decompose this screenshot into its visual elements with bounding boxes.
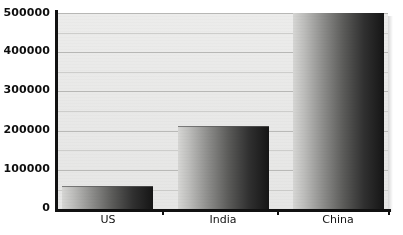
x-axis-line <box>55 209 391 212</box>
bar-india <box>178 126 269 209</box>
y-axis-tick-label-text: 0 <box>42 201 50 214</box>
y-axis-tick-label-text: 500000 <box>3 6 50 19</box>
bar-chart-figure: 500000 400000 300000 200000 100000 0 US … <box>0 0 403 235</box>
plot-drop-shadow <box>388 16 393 212</box>
x-axis-label-china: China <box>322 213 353 226</box>
y-axis-tick-label-text: 400000 <box>3 44 50 57</box>
x-axis-tick-1 <box>162 209 164 215</box>
bar-china <box>293 13 384 209</box>
x-axis-label-us: US <box>100 213 115 226</box>
bar-us <box>62 186 153 209</box>
y-axis-tick-label-text: 200000 <box>3 123 50 136</box>
y-axis-tick-label-text: 300000 <box>3 83 50 96</box>
plot-area <box>57 13 388 209</box>
x-axis-tick-3 <box>388 209 390 215</box>
x-axis-label-india: India <box>210 213 237 226</box>
x-axis-tick-2 <box>277 209 279 215</box>
y-axis-line <box>55 10 58 212</box>
y-axis-tick-label-text: 100000 <box>3 162 50 175</box>
